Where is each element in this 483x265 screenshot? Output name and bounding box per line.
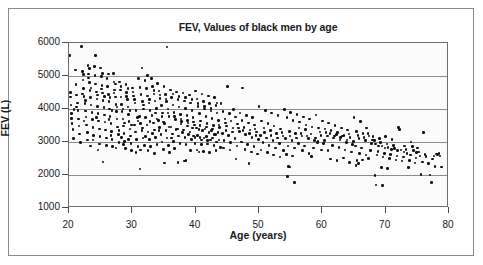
data-point [253, 145, 256, 148]
data-point [259, 134, 262, 137]
data-point [193, 124, 196, 127]
data-point [141, 100, 144, 103]
data-point [376, 154, 379, 157]
data-point [301, 149, 304, 152]
data-point [407, 166, 410, 169]
data-point [288, 130, 291, 133]
data-point [191, 109, 194, 112]
data-point [161, 112, 164, 115]
data-point [213, 96, 216, 99]
data-point [108, 118, 111, 121]
data-point [88, 67, 91, 70]
data-point [127, 138, 130, 141]
x-tick-60 [321, 207, 322, 213]
data-point [94, 54, 97, 57]
data-point [331, 144, 334, 147]
data-point [198, 151, 201, 154]
data-point [358, 137, 361, 140]
data-point [395, 159, 398, 162]
data-point [186, 125, 189, 128]
data-point [246, 143, 249, 146]
data-point [281, 131, 284, 134]
data-point [352, 140, 355, 143]
data-point [234, 137, 237, 140]
data-point [115, 147, 118, 150]
data-point [155, 107, 158, 110]
data-point [282, 149, 285, 152]
data-point [369, 149, 372, 152]
data-point [355, 130, 358, 133]
data-point [222, 147, 225, 150]
data-point [374, 174, 377, 177]
data-point [119, 89, 122, 92]
data-point [153, 152, 156, 155]
data-point [116, 118, 119, 121]
data-point [229, 141, 232, 144]
data-point [237, 127, 240, 130]
data-point [100, 88, 103, 91]
data-point [103, 95, 106, 98]
data-point [99, 67, 102, 70]
data-point [182, 92, 185, 95]
data-point [161, 115, 164, 118]
data-point [225, 125, 228, 128]
data-point [239, 112, 242, 115]
data-point [95, 116, 98, 119]
data-point [236, 123, 239, 126]
data-point [213, 144, 216, 147]
data-point [255, 134, 258, 137]
data-point [268, 144, 271, 147]
data-point [303, 145, 306, 148]
data-point [287, 145, 290, 148]
data-point [163, 85, 166, 88]
data-point [264, 109, 267, 112]
data-point [277, 114, 280, 117]
data-point [293, 181, 296, 184]
data-point [179, 113, 182, 116]
data-point [209, 139, 212, 142]
data-point [327, 122, 330, 125]
data-point [169, 89, 172, 92]
data-point [159, 94, 162, 97]
data-point [71, 122, 74, 125]
data-point [415, 157, 418, 160]
data-point [130, 149, 133, 152]
y-tick-label-wrap: 4000 [16, 102, 60, 114]
data-point [84, 99, 87, 102]
data-point [222, 110, 225, 113]
data-point [85, 124, 88, 127]
data-point [148, 138, 151, 141]
data-point [364, 139, 367, 142]
x-tick-label-wrap: 30 [111, 214, 151, 232]
data-point [238, 130, 241, 133]
data-point [255, 131, 258, 134]
data-point [132, 95, 135, 98]
data-point [202, 150, 205, 153]
data-point [198, 112, 201, 115]
data-point [90, 87, 93, 90]
data-point [167, 112, 170, 115]
data-point [440, 166, 443, 169]
data-point [144, 135, 147, 138]
data-point [201, 93, 204, 96]
data-point [104, 121, 107, 124]
data-point [171, 133, 174, 136]
chart-title: FEV, Values of black men by age [68, 21, 448, 33]
data-point [100, 75, 103, 78]
data-point [139, 122, 142, 125]
data-point [184, 96, 187, 99]
data-point [96, 98, 99, 101]
x-tick-80 [448, 207, 449, 213]
data-point [263, 131, 266, 134]
data-point [279, 156, 282, 159]
data-point [86, 131, 89, 134]
data-point [212, 124, 215, 127]
data-point [260, 120, 263, 123]
data-point [96, 105, 99, 108]
data-point [283, 108, 286, 111]
data-point [157, 119, 160, 122]
y-tick-label: 1000 [20, 201, 60, 212]
data-point [92, 134, 95, 137]
x-tick-label: 80 [442, 219, 453, 230]
data-point [274, 147, 277, 150]
